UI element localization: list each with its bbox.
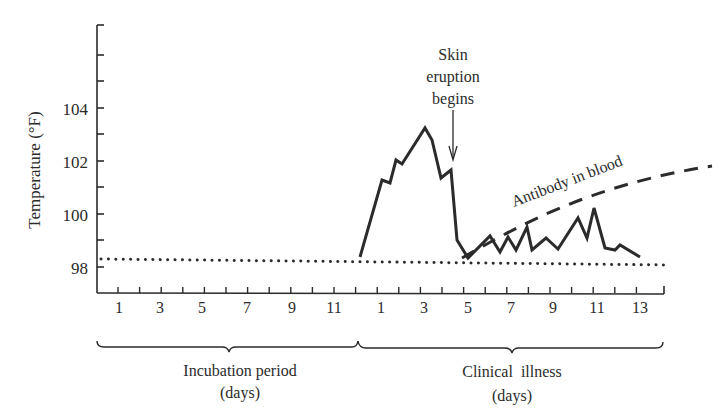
x-axis	[97, 286, 664, 294]
svg-text:9: 9	[549, 299, 557, 316]
clinical-tick-labels: 1 3 5 7 9 11 13	[377, 299, 648, 316]
y-axis-title: Temperature (°F)	[25, 111, 44, 228]
svg-text:11: 11	[589, 299, 604, 316]
svg-text:11: 11	[326, 299, 341, 316]
svg-text:7: 7	[507, 299, 515, 316]
svg-text:begins: begins	[432, 90, 474, 108]
y-tick-label: 98	[71, 259, 88, 278]
incubation-tick-labels: 1 3 5 7 9 11	[115, 299, 342, 316]
svg-text:1: 1	[377, 299, 385, 316]
svg-text:5: 5	[464, 299, 472, 316]
skin-eruption-annotation: Skin eruption begins	[426, 46, 479, 160]
incubation-brace	[97, 341, 358, 352]
incubation-period-unit: (days)	[220, 384, 260, 402]
temperature-chart: 104 102 100 98 Temperature (°F) 1 3 5 7 …	[0, 0, 728, 417]
svg-text:7: 7	[243, 299, 251, 316]
incubation-period-title: Incubation period	[183, 362, 296, 380]
clinical-illness-title: Clinical illness	[462, 363, 562, 380]
svg-text:1: 1	[115, 299, 123, 316]
clinical-brace	[358, 341, 663, 353]
svg-text:5: 5	[198, 299, 206, 316]
svg-text:3: 3	[156, 299, 164, 316]
svg-text:9: 9	[288, 299, 296, 316]
svg-text:3: 3	[420, 299, 428, 316]
svg-text:13: 13	[632, 299, 648, 316]
clinical-illness-unit: (days)	[492, 387, 532, 405]
y-tick-label: 102	[63, 153, 89, 172]
antibody-label: Antibody in blood	[509, 152, 625, 211]
y-tick-label: 100	[63, 206, 89, 225]
svg-text:Skin: Skin	[438, 46, 467, 63]
y-axis	[97, 25, 104, 293]
svg-text:eruption: eruption	[426, 68, 479, 86]
y-tick-label: 104	[63, 100, 89, 119]
x-axis-ticks	[118, 287, 636, 293]
normal-temperature-line	[101, 259, 670, 265]
